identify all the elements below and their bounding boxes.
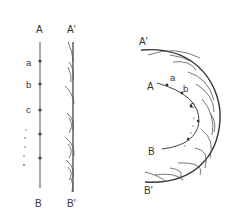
plane-wave-group: A A′ B B′ a b c	[23, 24, 76, 209]
point-e	[38, 156, 41, 159]
point-c	[38, 108, 41, 111]
spherical-primary-front-arc	[157, 83, 199, 149]
plane-label-A: A	[36, 24, 43, 35]
sph-label-A-prime: A′	[139, 36, 148, 47]
plane-label-a: a	[26, 57, 32, 68]
point-b	[38, 82, 41, 85]
sph-label-a: a	[170, 72, 176, 83]
plane-label-B-prime: B′	[67, 198, 76, 209]
point-d	[38, 132, 41, 135]
sph-label-b: b	[183, 83, 188, 94]
sph-label-c: c	[190, 99, 195, 110]
plane-label-A-prime: A′	[67, 24, 76, 35]
plane-label-c: c	[26, 104, 31, 115]
sph-label-B-prime: B′	[144, 185, 153, 196]
plane-ellipsis-dots	[23, 129, 27, 166]
spherical-new-front-arc	[141, 50, 220, 183]
sph-point-a	[166, 84, 169, 87]
plane-label-b: b	[26, 79, 31, 90]
plane-label-B: B	[35, 198, 42, 209]
point-a	[38, 59, 41, 62]
spherical-wave-group: A′ A B B′ a b c	[139, 36, 220, 196]
sph-label-A: A	[147, 81, 154, 92]
sph-label-B: B	[148, 146, 155, 157]
huygens-diagram: A A′ B B′ a b c	[0, 0, 227, 217]
